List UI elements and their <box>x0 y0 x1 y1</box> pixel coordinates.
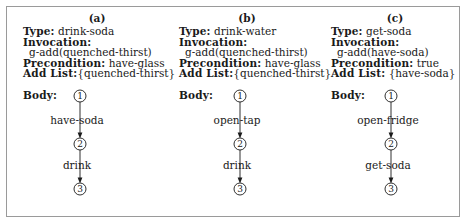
plan-node-label-b-3: 3 <box>237 184 243 194</box>
plan-node-b-2 <box>234 138 246 150</box>
spec-key-body-b: Body: <box>179 89 213 101</box>
panel-a: (a) Type: drink-soda Invocation: g-add(q… <box>15 7 167 218</box>
plan-node-b-1 <box>234 90 246 102</box>
plan-node-label-c-3: 3 <box>388 184 394 194</box>
plan-node-label-a-1: 1 <box>77 91 83 101</box>
spec-row-addlist-b: Add List:{quenched-thirst} <box>179 68 317 79</box>
plan-edge-label-a-2: drink <box>63 159 92 171</box>
plan-node-b-3 <box>234 183 246 195</box>
operator-spec-b: Type: drink-water Invocation: g-add(quen… <box>179 26 317 79</box>
plan-edge-label-b-2: drink <box>223 159 252 171</box>
spec-row-addlist-c: Add List: {have-soda} <box>331 68 459 79</box>
plan-node-label-b-2: 2 <box>237 139 243 149</box>
plan-node-a-3 <box>74 183 86 195</box>
edge-arrowhead-b-1 <box>238 133 243 139</box>
plan-edge-label-c-2: get-soda <box>365 159 410 171</box>
operator-spec-a: Type: drink-soda Invocation: g-add(quenc… <box>23 26 167 79</box>
plan-node-c-3 <box>385 183 397 195</box>
spec-key-addlist: Add List: <box>179 67 233 79</box>
operator-spec-c: Type: get-soda Invocation: g-add(have-so… <box>331 26 459 79</box>
plan-node-a-1 <box>74 90 86 102</box>
plan-edge-label-b-1: open-tap <box>214 114 261 126</box>
plan-node-label-c-2: 2 <box>388 139 394 149</box>
plan-edge-label-a-1: have-soda <box>50 114 103 126</box>
spec-value-addlist-c: {have-soda} <box>385 67 455 79</box>
edge-arrowhead-b-2 <box>238 178 243 184</box>
spec-value-addlist-a: {quenched-thirst} <box>77 67 175 79</box>
edge-arrowhead-a-1 <box>78 133 83 139</box>
plan-node-a-2 <box>74 138 86 150</box>
spec-key-body-a: Body: <box>23 89 57 101</box>
spec-value-addlist-b: {quenched-thirst} <box>233 67 331 79</box>
edge-arrowhead-a-2 <box>78 178 83 184</box>
plan-node-c-1 <box>385 90 397 102</box>
panel-caption-c: (c) <box>319 12 465 24</box>
plan-node-label-c-1: 1 <box>388 91 394 101</box>
plan-node-label-a-3: 3 <box>77 184 83 194</box>
plan-node-label-a-2: 2 <box>77 139 83 149</box>
panel-c: (c) Type: get-soda Invocation: g-add(hav… <box>319 7 459 218</box>
spec-key-addlist: Add List: <box>23 67 77 79</box>
spec-key-body-c: Body: <box>331 89 365 101</box>
plan-edge-label-c-1: open-fridge <box>357 114 419 126</box>
spec-key-addlist: Add List: <box>331 67 385 79</box>
figure-frame: (a) Type: drink-soda Invocation: g-add(q… <box>6 6 460 217</box>
edge-arrowhead-c-2 <box>389 178 394 184</box>
spec-row-addlist-a: Add List:{quenched-thirst} <box>23 68 167 79</box>
panel-b: (b) Type: drink-water Invocation: g-add(… <box>169 7 317 218</box>
panel-caption-b: (b) <box>169 12 321 24</box>
panel-caption-a: (a) <box>15 12 173 24</box>
plan-node-c-2 <box>385 138 397 150</box>
plan-node-label-b-1: 1 <box>237 91 243 101</box>
edge-arrowhead-c-1 <box>389 133 394 139</box>
